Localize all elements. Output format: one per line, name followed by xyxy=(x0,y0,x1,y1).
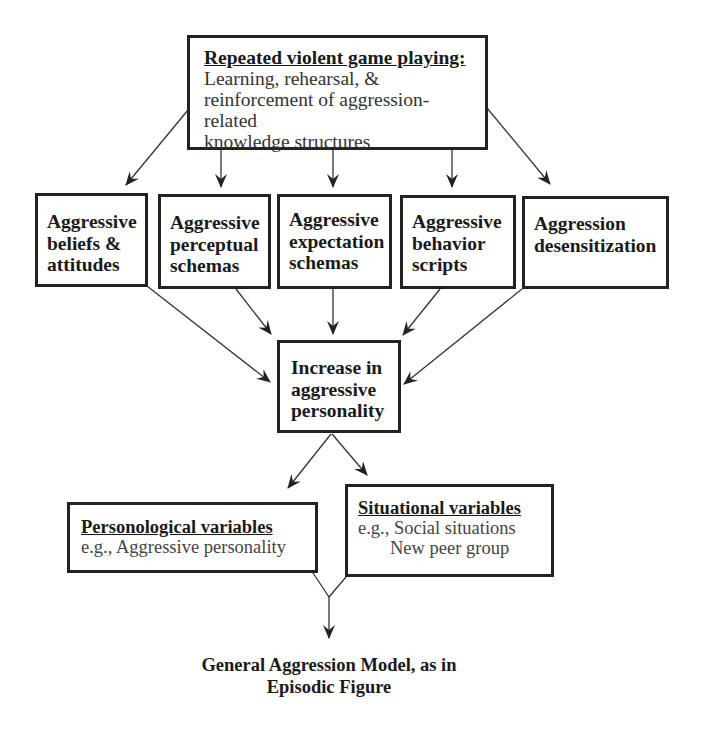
aggressive-behavior-scripts-box: Aggressive behavior scripts xyxy=(400,195,516,289)
arrow-top-to-desensitization xyxy=(487,108,550,184)
box-label-line: desensitization xyxy=(534,235,660,257)
box-label-line: expectation xyxy=(289,231,383,253)
box-label-line: Aggressive xyxy=(170,212,262,234)
box-label-line: schemas xyxy=(289,252,383,274)
top-box-title: Repeated violent game playing: xyxy=(204,47,473,68)
aggressive-perceptual-schemas-box: Aggressive perceptual schemas xyxy=(158,194,271,289)
arrow-perceptual-to-center xyxy=(236,289,271,334)
box-label-line: aggressive xyxy=(291,379,392,401)
personological-variables-box: Personological variables e.g., Aggressiv… xyxy=(67,502,318,573)
situational-title: Situational variables xyxy=(358,498,545,518)
box-label-line: Aggressive xyxy=(47,211,139,233)
box-label-line: beliefs & xyxy=(47,233,139,255)
box-label-line: personality xyxy=(291,400,392,422)
box-label-line: Aggression xyxy=(534,213,660,235)
arrow-top-to-beliefs xyxy=(126,110,188,185)
arrow-center-to-personological xyxy=(288,434,331,488)
caption-line: General Aggression Model, as in xyxy=(129,654,529,676)
merge-personological xyxy=(313,573,329,597)
aggressive-beliefs-attitudes-box: Aggressive beliefs & attitudes xyxy=(35,193,148,287)
arrow-beliefs-to-center xyxy=(147,286,270,382)
box-label-line: behavior xyxy=(412,233,507,255)
personological-title: Personological variables xyxy=(81,517,309,537)
arrow-desensitization-to-center xyxy=(404,289,522,384)
situational-example: New peer group xyxy=(358,538,545,558)
box-label-line: perceptual xyxy=(170,234,262,256)
increase-aggressive-personality-box: Increase in aggressive personality xyxy=(277,340,401,433)
box-label-line: attitudes xyxy=(47,254,139,276)
merge-situational xyxy=(329,577,346,597)
caption-line: Episodic Figure xyxy=(129,676,529,698)
aggressive-expectation-schemas-box: Aggressive expectation schemas xyxy=(277,194,392,289)
situational-example: e.g., Social situations xyxy=(358,518,545,538)
repeated-violent-game-playing-box: Repeated violent game playing: Learning,… xyxy=(187,35,488,150)
box-label-line: scripts xyxy=(412,254,507,276)
box-label-line: schemas xyxy=(170,255,262,277)
arrow-center-to-situational xyxy=(332,434,367,475)
arrow-scripts-to-center xyxy=(403,289,440,335)
top-box-line: Learning, rehearsal, & xyxy=(204,68,473,89)
box-label-line: Aggressive xyxy=(289,209,383,231)
box-label-line: Aggressive xyxy=(412,211,507,233)
situational-variables-box: Situational variables e.g., Social situa… xyxy=(345,484,554,577)
box-label-line: Increase in xyxy=(291,357,392,379)
aggression-desensitization-box: Aggression desensitization xyxy=(522,196,669,289)
top-box-line: reinforcement of aggression-related xyxy=(204,89,473,131)
top-box-line: knowledge structures xyxy=(204,131,473,152)
general-aggression-model-caption: General Aggression Model, as in Episodic… xyxy=(129,654,529,698)
personological-example: e.g., Aggressive personality xyxy=(81,537,309,557)
